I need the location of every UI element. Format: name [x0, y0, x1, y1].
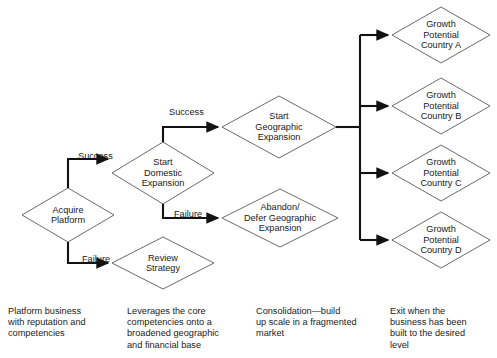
flowchart-canvas: Acquire PlatformStart Domestic Expansion… — [0, 0, 497, 358]
node-start-geographic-expansion — [222, 96, 336, 158]
node-growth-potential-country-d — [392, 212, 490, 268]
caption-3: Consolidation—build up scale in a fragme… — [256, 306, 357, 340]
edge-label-success-domestic: Success — [78, 151, 113, 161]
node-start-domestic-expansion — [112, 142, 214, 204]
node-growth-potential-country-c — [392, 145, 490, 201]
node-acquire-platform — [22, 188, 114, 242]
node-review-strategy — [112, 237, 214, 289]
caption-4: Exit when the business has been built to… — [390, 306, 467, 351]
node-abandon-defer-geographic-expansion — [222, 189, 338, 247]
edge-label-success-geographic: Success — [169, 107, 204, 117]
node-shapes-layer — [22, 7, 490, 289]
node-growth-potential-country-b — [392, 78, 490, 134]
connectors-layer — [68, 35, 388, 263]
node-growth-potential-country-a — [392, 7, 490, 63]
edge-acquire-to-domestic — [68, 159, 108, 188]
edge-label-failure-abandon: Failure — [174, 209, 202, 219]
flowchart-graphics — [0, 0, 497, 358]
edge-label-failure-review: Failure — [82, 254, 110, 264]
caption-1: Platform business with reputation and co… — [8, 306, 86, 340]
caption-2: Leverages the core competencies onto a b… — [127, 306, 219, 351]
edge-domestic-to-geographic — [163, 127, 218, 142]
